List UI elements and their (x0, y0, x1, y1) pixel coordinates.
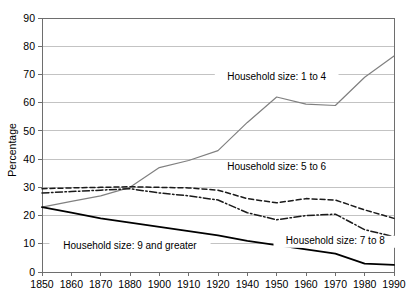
series-line-2 (42, 189, 394, 237)
x-tick-label: 1880 (118, 278, 142, 290)
line-chart: 0102030405060708090 18501860187018801900… (0, 0, 417, 300)
series-annotation-1: Household size: 5 to 6 (227, 161, 326, 172)
x-tick-label: 1970 (324, 278, 348, 290)
y-tick-label: 30 (23, 181, 35, 193)
y-tick-label: 0 (29, 266, 35, 278)
series-line-1 (42, 187, 394, 219)
x-tick-label: 1920 (206, 278, 230, 290)
y-tick-label: 60 (23, 96, 35, 108)
series-lines (42, 56, 394, 265)
series-annotation-0: Household size: 1 to 4 (227, 71, 326, 82)
y-tick-label: 40 (23, 153, 35, 165)
x-tick-label: 1910 (177, 278, 201, 290)
x-tick-label: 1900 (148, 278, 172, 290)
x-tick-label: 1950 (265, 278, 289, 290)
y-tick-label: 50 (23, 125, 35, 137)
series-annotations: Household size: 1 to 4Household size: 5 … (49, 71, 397, 253)
x-tick-label: 1860 (60, 278, 84, 290)
x-tick-label: 1940 (236, 278, 260, 290)
y-axis-title: Percentage (6, 123, 18, 177)
y-tick-label: 90 (23, 12, 35, 24)
series-annotation-2: Household size: 7 to 8 (286, 235, 385, 246)
x-tick-label: 1850 (30, 278, 54, 290)
x-tick-label: 1960 (294, 278, 318, 290)
series-annotation-3: Household size: 9 and greater (63, 240, 197, 251)
x-tick-label: 1870 (89, 278, 113, 290)
x-tick-labels: 1850186018701880190019101920194019501960… (30, 278, 406, 290)
x-tick-label: 1990 (382, 278, 406, 290)
y-tick-labels: 0102030405060708090 (23, 12, 35, 278)
chart-container: 0102030405060708090 18501860187018801900… (0, 0, 417, 300)
y-tick-label: 10 (23, 237, 35, 249)
y-tick-label: 70 (23, 68, 35, 80)
y-tick-label: 20 (23, 209, 35, 221)
y-tick-label: 80 (23, 40, 35, 52)
x-tick-label: 1980 (353, 278, 377, 290)
